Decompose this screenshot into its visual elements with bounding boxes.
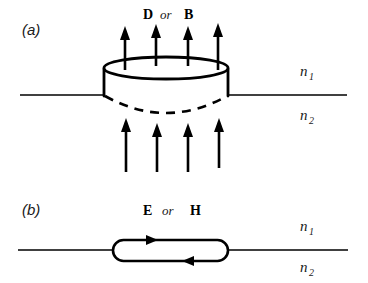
panel-a-field-label-second: B [184, 7, 193, 22]
panel-b-medium-lower-subscript: 2 [309, 267, 314, 278]
panel-b-field-label-second: H [190, 203, 201, 218]
panel-b-tag: (b) [22, 201, 40, 218]
field-arrow-up [152, 123, 162, 172]
panel-b-medium-lower-label: n 2 [300, 259, 314, 278]
panel-a-medium-lower-subscript: 2 [309, 115, 314, 126]
panel-a-medium-upper-symbol: n [300, 63, 308, 79]
panel-a-field-label-conjunction: or [160, 7, 173, 22]
panel-a-tag: (a) [22, 21, 40, 38]
field-arrow-up [214, 118, 224, 168]
panel-b: (b) E or H n 1 n 2 [18, 201, 348, 278]
field-arrow-up [121, 118, 131, 172]
panel-a: (a) D or B n 1 n 2 [20, 7, 347, 172]
panel-b-medium-upper-symbol: n [300, 218, 308, 234]
figure-root: (a) D or B n 1 n 2 [0, 0, 368, 283]
boundary-conditions-figure: (a) D or B n 1 n 2 [0, 0, 368, 283]
panel-a-medium-upper-subscript: 1 [309, 71, 314, 82]
panel-a-medium-upper-label: n 1 [300, 63, 314, 82]
panel-a-medium-lower-label: n 2 [300, 107, 314, 126]
panel-b-field-label-first: E [143, 203, 152, 218]
panel-b-medium-lower-symbol: n [300, 259, 308, 275]
panel-b-field-label-conjunction: or [162, 203, 175, 218]
panel-a-field-label-first: D [143, 7, 153, 22]
panel-a-medium-lower-symbol: n [300, 107, 308, 123]
field-arrow-up [183, 123, 193, 172]
panel-b-medium-upper-subscript: 1 [309, 226, 314, 237]
panel-b-medium-upper-label: n 1 [300, 218, 314, 237]
amperian-loop-fill [113, 240, 228, 261]
panel-a-arrows-below [121, 118, 224, 172]
